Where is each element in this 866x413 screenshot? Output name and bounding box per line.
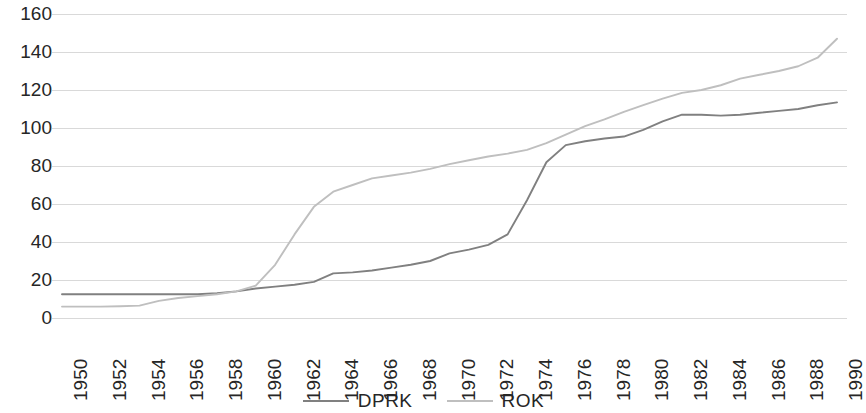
y-axis-tick-label: 80: [6, 156, 52, 175]
y-axis: 020406080100120140160: [0, 0, 52, 330]
series-line-dprk: [62, 102, 837, 294]
legend-line-swatch-rok: [447, 400, 493, 402]
y-axis-tick-label: 60: [6, 194, 52, 213]
gridlines: [52, 14, 847, 318]
legend-label: DPRK: [358, 391, 413, 410]
legend-item-rok[interactable]: ROK: [447, 391, 545, 410]
y-axis-tick-label: 20: [6, 270, 52, 289]
y-axis-tick-label: 100: [6, 118, 52, 137]
x-axis: 1950195219541956195819601962196419661968…: [0, 330, 847, 385]
x-axis-tick-label: 1990: [846, 382, 865, 401]
y-axis-tick-label: 120: [6, 80, 52, 99]
legend-item-dprk[interactable]: DPRK: [303, 391, 413, 410]
y-axis-tick-label: 0: [6, 308, 52, 327]
y-axis-tick-label: 40: [6, 232, 52, 251]
y-axis-tick-label: 160: [6, 4, 52, 23]
legend-line-swatch-dprk: [303, 400, 349, 402]
series-lines: [62, 39, 837, 307]
plot-area: [52, 0, 847, 330]
plot-svg: [52, 0, 847, 330]
y-axis-tick-label: 140: [6, 42, 52, 61]
chart-legend: DPRKROK: [0, 388, 847, 413]
legend-label: ROK: [502, 391, 545, 410]
series-line-rok: [62, 39, 837, 307]
